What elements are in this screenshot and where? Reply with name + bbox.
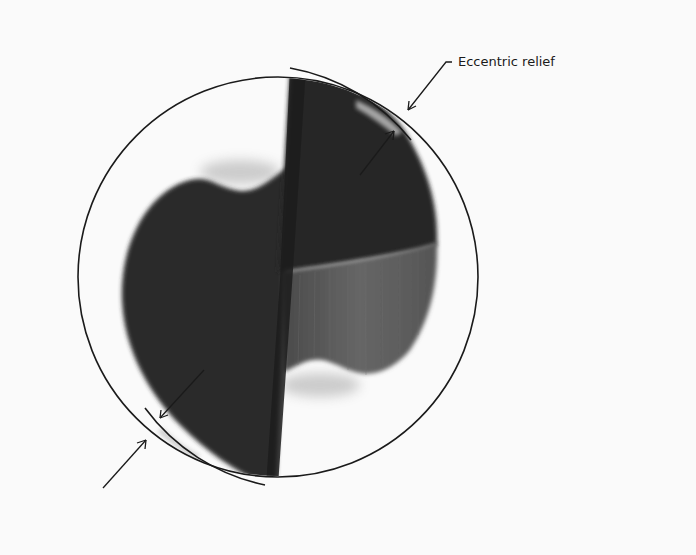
drill-body: [122, 68, 437, 486]
drill-end-view-figure: Eccentric relief: [0, 0, 696, 555]
eccentric-relief-label: Eccentric relief: [458, 54, 555, 69]
eccentric-relief-leader-upper: [408, 62, 452, 110]
eccentric-relief-leader-lower: [103, 440, 146, 488]
drill-illustration: [0, 0, 696, 555]
left-lobe: [122, 165, 290, 486]
